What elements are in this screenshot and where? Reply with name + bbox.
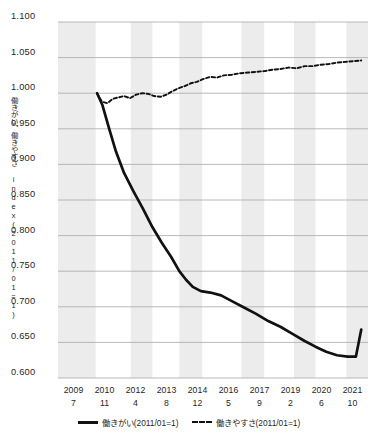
legend-label-hatarakiyasusa: 働きやすさ(2011/01=1): [216, 416, 301, 428]
y-axis-tick-label: 0.900: [11, 153, 55, 163]
y-axis-tick-label: 0.650: [11, 331, 55, 341]
y-axis-tick-label: 0.750: [11, 260, 55, 270]
y-axis-tick-label: 1.100: [11, 11, 55, 21]
y-axis-tick-label: 0.800: [11, 225, 55, 235]
y-axis-tick-label: 0.600: [11, 367, 55, 377]
y-axis-tick-label: 1.050: [11, 47, 55, 57]
chart-container: 働きがい、働きやすさ index(2011/01=1) 1.1001.0501.…: [0, 0, 378, 435]
y-axis-tick-label: 0.950: [11, 118, 55, 128]
y-axis-tick-label: 0.700: [11, 296, 55, 306]
chart-plot-area: [0, 0, 378, 435]
legend-swatch-dashed-line-icon: [192, 421, 212, 423]
y-axis-tick-label: 1.000: [11, 82, 55, 92]
legend-item-hatarakiyasusa: 働きやすさ(2011/01=1): [192, 416, 301, 428]
chart-legend: 働きがい(2011/01=1) 働きやすさ(2011/01=1): [0, 413, 378, 431]
legend-item-hatarakigai: 働きがい(2011/01=1): [78, 416, 179, 428]
x-axis-month-label: 10: [333, 398, 373, 408]
legend-swatch-solid-line-icon: [78, 421, 98, 424]
y-axis-tick-label: 0.850: [11, 189, 55, 199]
x-axis-year-label: 2021: [333, 385, 373, 395]
legend-label-hatarakigai: 働きがい(2011/01=1): [102, 416, 179, 428]
